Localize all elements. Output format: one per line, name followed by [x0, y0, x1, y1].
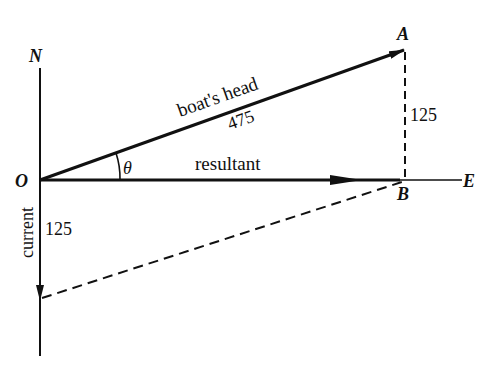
label-a: A	[396, 24, 409, 44]
label-resultant: resultant	[195, 153, 261, 174]
label-current: current	[17, 207, 37, 258]
label-theta: θ	[123, 158, 132, 178]
label-boats-head-magnitude: 475	[225, 106, 257, 134]
label-e: E	[462, 171, 475, 191]
vector-diagram: N O E A B θ boat's head 475 resultant 12…	[0, 0, 485, 366]
label-n: N	[28, 46, 43, 66]
resultant-arrowhead	[330, 175, 362, 185]
label-ab-magnitude: 125	[410, 105, 437, 125]
closing-dashed	[42, 182, 402, 298]
label-b: B	[396, 184, 409, 204]
label-o: O	[15, 171, 28, 191]
label-current-magnitude: 125	[45, 219, 72, 239]
theta-arc	[116, 153, 120, 180]
